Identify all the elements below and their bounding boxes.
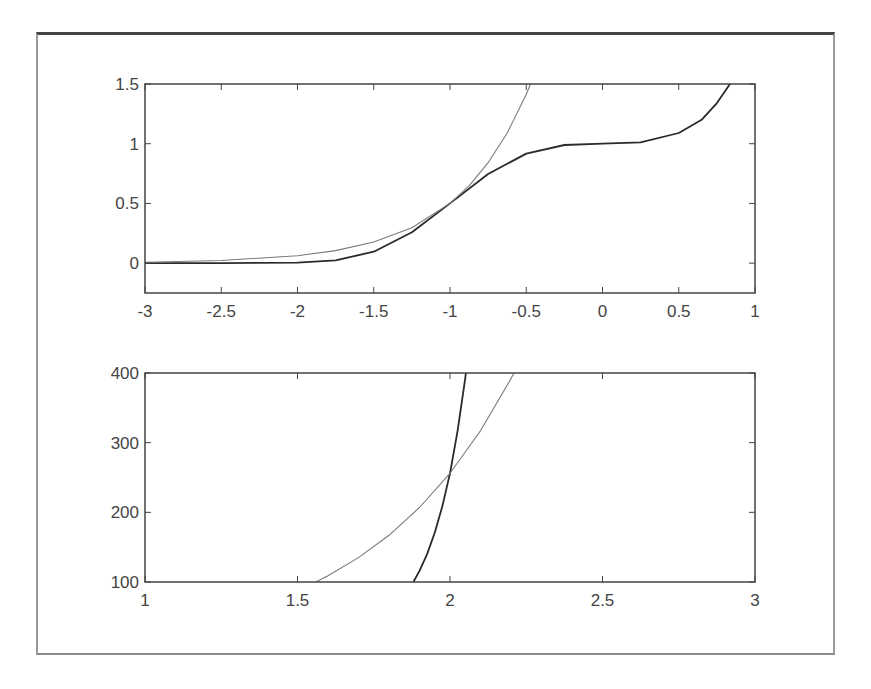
top-subplot: -3-2.5-2-1.5-1-0.500.5100.511.5 xyxy=(115,75,759,321)
series-line-dark xyxy=(145,84,730,263)
y-tick-label: 1 xyxy=(130,135,139,154)
x-tick-label: 2 xyxy=(445,591,454,610)
x-tick-label: -3 xyxy=(137,302,152,321)
x-tick-label: 3 xyxy=(750,591,759,610)
y-tick-label: 200 xyxy=(111,503,139,522)
x-tick-label: 0.5 xyxy=(667,302,691,321)
x-tick-label: -2.5 xyxy=(207,302,236,321)
x-tick-label: -0.5 xyxy=(512,302,541,321)
y-tick-label: 0 xyxy=(130,254,139,273)
x-tick-label: -1 xyxy=(442,302,457,321)
y-tick-label: 400 xyxy=(111,364,139,383)
axes-box xyxy=(145,84,755,293)
x-tick-label: -2 xyxy=(290,302,305,321)
y-tick-label: 300 xyxy=(111,434,139,453)
x-tick-label: 1 xyxy=(140,591,149,610)
x-tick-label: 2.5 xyxy=(591,591,615,610)
x-tick-label: -1.5 xyxy=(359,302,388,321)
figure-canvas: -3-2.5-2-1.5-1-0.500.5100.511.5 11.522.5… xyxy=(0,0,871,689)
axes-box xyxy=(145,373,755,582)
x-tick-label: 1 xyxy=(750,302,759,321)
x-tick-label: 1.5 xyxy=(286,591,310,610)
x-tick-label: 0 xyxy=(598,302,607,321)
series-line-dark xyxy=(413,373,466,582)
bottom-subplot: 11.522.53100200300400 xyxy=(111,364,760,610)
series-line-light xyxy=(316,373,514,582)
y-tick-label: 0.5 xyxy=(115,194,139,213)
y-tick-label: 100 xyxy=(111,573,139,592)
series-line-light xyxy=(145,84,531,262)
y-tick-label: 1.5 xyxy=(115,75,139,94)
